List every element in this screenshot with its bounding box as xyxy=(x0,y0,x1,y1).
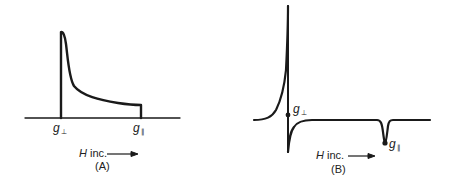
panel-b-derivative-curve xyxy=(254,6,430,152)
panel-a-g-perp-label: g⊥ xyxy=(53,121,66,135)
panel-b-g-perp-label: g⊥ xyxy=(293,102,306,116)
epr-powder-spectra-figure: g⊥ g∥ H inc. (A) g⊥ g∥ H inc. (B) xyxy=(0,0,449,192)
panel-b-axis-label: H inc. xyxy=(316,149,344,161)
panel-a-absorption-curve xyxy=(25,32,180,118)
figure-graphics xyxy=(0,0,449,192)
g-par-marker xyxy=(382,140,387,145)
panel-a-g-par-label: g∥ xyxy=(133,121,144,135)
panel-b-label: (B) xyxy=(331,163,346,175)
panel-a-axis-label: H inc. xyxy=(79,147,107,159)
panel-b-g-par-label: g∥ xyxy=(389,137,400,151)
panel-a-label: (A) xyxy=(95,160,110,172)
g-perp-marker xyxy=(286,113,291,118)
